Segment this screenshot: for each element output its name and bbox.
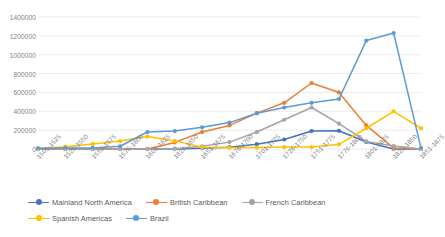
- legend-item[interactable]: French Caribbean: [242, 194, 326, 210]
- legend-label: Spanish Americas: [52, 214, 112, 223]
- legend-label: British Caribbean: [170, 198, 228, 207]
- chart-legend: Mainland North AmericaBritish CaribbeanF…: [0, 194, 427, 237]
- legend-marker-icon: [126, 214, 147, 223]
- legend-item[interactable]: Brazil: [126, 210, 169, 226]
- x-axis-tick-label: 1751-1775: [309, 133, 336, 160]
- x-axis-tick-label: 1801-1825: [363, 133, 390, 160]
- legend-marker-icon: [146, 198, 167, 207]
- legend-label: Mainland North America: [52, 198, 132, 207]
- x-axis-tick-label: 1601-1625: [144, 133, 171, 160]
- x-axis-tick-label: 1726-1750: [281, 133, 308, 160]
- legend-marker-icon: [28, 198, 49, 207]
- x-axis-tick-label: 1626-1650: [172, 133, 199, 160]
- x-axis-tick-label: 1826-1850: [391, 133, 418, 160]
- x-axis-tick-label: 1501-1525: [35, 133, 62, 160]
- legend-item[interactable]: British Caribbean: [146, 194, 228, 210]
- x-axis-tick-label: 1676-1700: [227, 133, 254, 160]
- x-axis-tick-label: 1776-1800: [336, 133, 363, 160]
- x-axis-tick-label: 1576-1600: [117, 133, 144, 160]
- legend-item[interactable]: Mainland North America: [28, 194, 132, 210]
- x-axis-tick-label: 1526-1550: [62, 133, 89, 160]
- legend-label: French Caribbean: [266, 198, 326, 207]
- x-axis-tick-label: 1651-1675: [199, 133, 226, 160]
- legend-marker-icon: [242, 198, 263, 207]
- plot-area: 0200000400000600000800000100000012000001…: [0, 0, 427, 196]
- x-axis-tick-label: 1551-1575: [90, 133, 117, 160]
- legend-marker-icon: [28, 214, 49, 223]
- x-axis-tick-label: 1851-1875: [418, 133, 445, 160]
- legend-label: Brazil: [150, 214, 169, 223]
- legend-item[interactable]: Spanish Americas: [28, 210, 112, 226]
- x-axis-tick-label: 1701-1725: [254, 133, 281, 160]
- x-axis-labels: 1501-15251526-15501551-15751576-16001601…: [0, 0, 427, 196]
